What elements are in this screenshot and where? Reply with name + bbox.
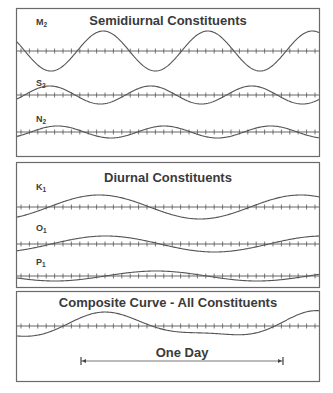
constituent-subscript: 1 — [43, 227, 47, 234]
span-label: One Day — [156, 345, 210, 360]
constituent-subscript: 2 — [44, 21, 48, 28]
diurnal-panel-title: Diurnal Constituents — [104, 170, 232, 185]
constituent-name: M — [36, 17, 44, 27]
constituent-subscript: 1 — [42, 261, 46, 268]
diurnal-panel: Diurnal Constituents K1 O1 P1 — [17, 163, 320, 288]
semidiurnal-panel-title: Semidiurnal Constituents — [89, 13, 246, 28]
constituent-subscript: 2 — [42, 82, 46, 89]
composite-panel: Composite Curve - All Constituents One D… — [17, 292, 320, 382]
semidiurnal-panel: Semidiurnal Constituents M2 S2 N2 — [17, 9, 320, 157]
constituent-name: O — [36, 223, 43, 233]
constituent-subscript: 1 — [43, 186, 47, 193]
tidal-constituents-diagram: Semidiurnal Constituents M2 S2 N2 Diurna… — [0, 0, 333, 393]
semidiurnal-panel-frame — [17, 9, 320, 157]
constituent-subscript: 2 — [43, 118, 47, 125]
composite-panel-title: Composite Curve - All Constituents — [59, 295, 277, 310]
